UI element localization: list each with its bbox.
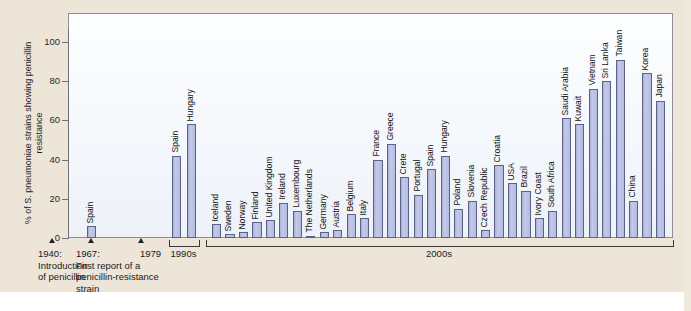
bar-slot: Luxembourg (293, 14, 302, 238)
bar-slot: Germany (320, 14, 329, 238)
bar (293, 211, 302, 238)
bar-slot: China (629, 14, 638, 238)
bar (172, 156, 181, 238)
bar-slot: Finland (252, 14, 261, 238)
bar-label: USA (507, 162, 516, 180)
timeline-group-label: 2000s (206, 248, 672, 259)
bar-slot: USA (508, 14, 517, 238)
bar-label: Sri Lanka (601, 42, 610, 78)
bar-slot: Vietnam (589, 14, 598, 238)
bar-label: Japan (655, 74, 664, 97)
bar-label: Brazil (521, 166, 530, 188)
bar (373, 160, 382, 238)
bar-slot: Italy (360, 14, 369, 238)
bar-slot: Sweden (225, 14, 234, 238)
bar-label: Iceland (211, 194, 220, 222)
bar (521, 191, 530, 238)
bar-slot: Sri Lanka (602, 14, 611, 238)
bar-slot: Austria (333, 14, 342, 238)
bar (589, 89, 598, 238)
bar-slot: Crete (400, 14, 409, 238)
bar-label: Ivory Coast (534, 172, 543, 215)
bar (629, 201, 638, 238)
bar-slot: Spain (87, 14, 96, 238)
bar-slot: Taiwan (616, 14, 625, 238)
bar (508, 183, 517, 238)
bar (266, 220, 275, 238)
bar-label: Spain (86, 201, 95, 223)
bar-slot: Hungary (441, 14, 450, 238)
bar-slot: Ivory Coast (535, 14, 544, 238)
bar-slot: South Africa (548, 14, 557, 238)
bar-slot: Poland (454, 14, 463, 238)
bar (454, 209, 463, 238)
bar-label: United Kingdom (265, 156, 274, 217)
bar-slot: The Netherlands (306, 14, 315, 238)
bar-slot: Norway (239, 14, 248, 238)
bar (656, 101, 665, 238)
bar (252, 222, 261, 238)
bar-label: Croatia (494, 135, 503, 163)
bar (279, 203, 288, 238)
bar-label: Czech Republic (480, 167, 489, 227)
bar (494, 165, 503, 238)
bar-label: Spain (427, 144, 436, 166)
bar (575, 124, 584, 238)
bar-label: Greece (386, 113, 395, 141)
bar-slot: Ireland (279, 14, 288, 238)
timeline-marker-arrow (138, 238, 144, 243)
bar (360, 218, 369, 238)
bar-slot: Spain (427, 14, 436, 238)
figure-bottom-margin (0, 292, 691, 311)
bar (212, 224, 221, 238)
bar-slot: Spain (172, 14, 181, 238)
bar-slot: Japan (656, 14, 665, 238)
bar-label: Hungary (186, 89, 195, 121)
bar (333, 230, 342, 238)
y-axis-title: % of S. pneumoniae strains showing penic… (23, 33, 45, 233)
timeline-marker-arrow (88, 238, 94, 243)
timeline-label-1979: 1979 (140, 248, 161, 260)
bar-label: Slovenia (467, 165, 476, 198)
bar (441, 156, 450, 238)
bar (387, 144, 396, 238)
bar-label: Ireland (279, 173, 288, 199)
figure-right-margin (684, 0, 691, 311)
bar (414, 195, 423, 238)
bar (642, 73, 651, 238)
timeline-group-label: 1990s (169, 248, 198, 259)
bar-label: Crete (400, 153, 409, 174)
bar (602, 81, 611, 238)
bar (427, 169, 436, 238)
bar-label: The Netherlands (306, 170, 315, 234)
timeline-axis: 1940: Introduction of penicillin1967: Fi… (0, 238, 691, 298)
bar-slot: Belgium (347, 14, 356, 238)
bar-slot: Hungary (187, 14, 196, 238)
bar-slot: United Kingdom (266, 14, 275, 238)
bar-label: South Africa (548, 161, 557, 207)
bar (535, 218, 544, 238)
bar-label: Taiwan (615, 30, 624, 57)
bar-label: Kuwait (575, 96, 584, 122)
bar (481, 230, 490, 238)
bar-series: SpainSpainHungaryIcelandSwedenNorwayFinl… (69, 14, 672, 238)
bar-label: Portugal (413, 160, 422, 192)
bar-label: Italy (359, 200, 368, 216)
bar-label: Austria (332, 200, 341, 227)
bar-label: China (628, 175, 637, 197)
bar-label: Spain (171, 131, 180, 153)
chart-figure: 020406080100 % of S. pneumoniae strains … (0, 0, 691, 311)
bar-slot: France (373, 14, 382, 238)
bar-label: Finland (252, 191, 261, 219)
bar-label: Sweden (225, 200, 234, 231)
bar (87, 226, 96, 238)
bar-slot: Iceland (212, 14, 221, 238)
bar (548, 211, 557, 238)
bar-label: Norway (238, 200, 247, 229)
bar (616, 60, 625, 238)
bar (187, 124, 196, 238)
bar-label: France (373, 130, 382, 157)
bar-slot: Czech Republic (481, 14, 490, 238)
bar-label: Germany (319, 194, 328, 229)
bar-label: Saudi Arabia (561, 67, 570, 116)
